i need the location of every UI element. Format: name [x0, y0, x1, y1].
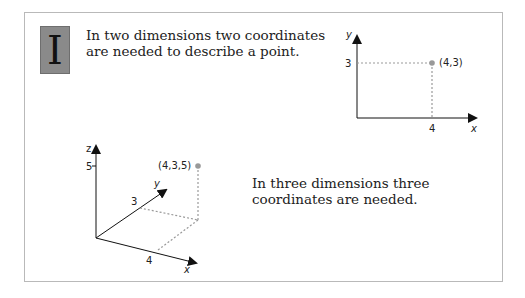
- point-label-3d: (4,3,5): [158, 160, 191, 171]
- x-tick-2d: 4: [429, 123, 435, 134]
- x-label-2d: x: [470, 123, 477, 134]
- y-label-3d: y: [153, 178, 161, 189]
- diagram-3d: (4,3,5) 5 3 4 z y x: [86, 143, 201, 275]
- y-tick-2d: 3: [345, 58, 351, 69]
- x-label-3d: x: [183, 264, 190, 275]
- diagram-2d: (4,3) 3 4 y x: [345, 29, 477, 134]
- x-tick-3d: 4: [146, 255, 152, 266]
- y-tick-3d: 3: [131, 196, 137, 207]
- coordinate-diagrams: (4,3) 3 4 y x (4,3,5) 5 3 4 z y x: [0, 0, 525, 298]
- y-label-2d: y: [345, 29, 353, 40]
- z-tick-3d: 5: [86, 161, 92, 172]
- point-4-3-5: [195, 163, 201, 169]
- point-label-2d: (4,3): [439, 57, 463, 68]
- z-label-3d: z: [86, 143, 91, 154]
- point-4-3: [429, 60, 435, 66]
